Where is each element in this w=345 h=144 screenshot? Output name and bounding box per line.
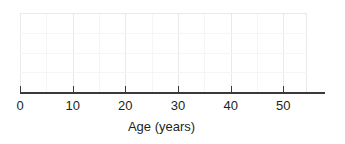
x-axis-line: [20, 92, 325, 94]
x-axis-tick: [125, 86, 126, 92]
x-axis-tick: [73, 86, 74, 92]
chart-container: 01020304050 Age (years): [0, 0, 345, 144]
x-axis-tick-label: 30: [158, 98, 198, 113]
x-axis-tick: [20, 86, 21, 92]
x-axis-tick-label: 0: [0, 98, 40, 113]
gridline-horizontal: [20, 33, 307, 34]
plot-area: [20, 13, 307, 92]
x-axis-tick: [178, 86, 179, 92]
gridline-horizontal: [20, 72, 307, 73]
gridline-horizontal: [20, 13, 307, 14]
x-axis-tick-label: 50: [263, 98, 303, 113]
x-axis-title: Age (years): [0, 119, 345, 134]
x-axis-tick-label: 10: [53, 98, 93, 113]
x-axis-tick-label: 40: [211, 98, 251, 113]
x-axis-tick-label: 20: [105, 98, 145, 113]
gridline-horizontal: [20, 53, 307, 54]
x-axis-tick: [283, 86, 284, 92]
x-axis-tick: [231, 86, 232, 92]
x-axis-title-label: Age (years): [128, 119, 195, 134]
